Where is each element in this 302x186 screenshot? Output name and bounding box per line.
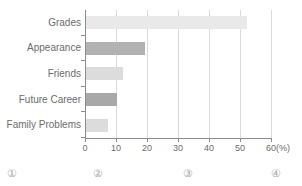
category-label: Friends [0,68,81,80]
y-axis-tick-mark [81,137,85,138]
x-axis-tick-mark [85,139,86,142]
x-axis-tick-label: 40 [197,143,221,154]
bar [86,119,108,132]
x-axis-unit-label: (%) [276,143,290,154]
option-marker-1[interactable]: ① [2,167,22,180]
category-label: Appearance [0,42,81,54]
x-axis-tick-label: 10 [104,143,128,154]
x-axis-tick-mark [116,139,117,142]
chart-row: Grades [0,10,302,36]
x-axis-tick-mark [271,139,272,142]
x-axis-tick-label: 20 [135,143,159,154]
chart-row: Appearance [0,36,302,62]
option-marker-3[interactable]: ③ [178,167,198,180]
chart-row: Family Problems [0,112,302,138]
bar [86,93,117,106]
bar-chart: 0102030405060 (%) GradesAppearanceFriend… [0,0,302,186]
x-axis-tick-mark [240,139,241,142]
option-marker-4[interactable]: ④ [266,167,286,180]
bar [86,42,145,55]
x-axis-tick-mark [178,139,179,142]
chart-row: Future Career [0,87,302,113]
x-axis-tick-mark [209,139,210,142]
chart-row: Friends [0,61,302,87]
x-axis-tick-mark [147,139,148,142]
x-axis-tick-label: 0 [73,143,97,154]
x-axis-tick-label: 30 [166,143,190,154]
option-marker-2[interactable]: ② [88,167,108,180]
category-label: Grades [0,17,81,29]
x-axis-tick-label: 50 [228,143,252,154]
category-label: Future Career [0,94,81,106]
category-label: Family Problems [0,119,81,131]
bar [86,67,123,80]
bar [86,16,247,29]
